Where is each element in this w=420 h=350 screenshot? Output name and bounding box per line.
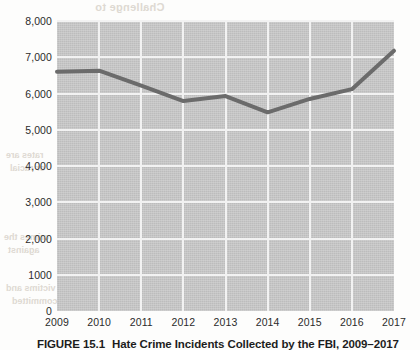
- y-axis-tick-label: 6,000: [2, 88, 52, 100]
- line-chart-figure: 010002,0003,0004,0005,0006,0007,0008,000…: [0, 0, 420, 350]
- x-axis-tick-label: 2016: [340, 316, 364, 328]
- x-axis-tick-label: 2017: [382, 316, 406, 328]
- x-axis-tick-label: 2012: [171, 316, 195, 328]
- hate-crime-incidents-line: [57, 51, 394, 113]
- y-axis-tick-label: 1000: [2, 269, 52, 281]
- y-axis-tick-label: 4,000: [2, 160, 52, 172]
- x-axis-tick-label: 2010: [87, 316, 111, 328]
- x-axis-tick-label: 2011: [130, 316, 153, 328]
- figure-caption: FIGURE 15.1Hate Crime Incidents Collecte…: [37, 338, 399, 350]
- x-axis-tick-label: 2009: [45, 316, 69, 328]
- y-axis-tick-label: 5,000: [2, 124, 52, 136]
- y-axis-tick-label: 7,000: [2, 51, 52, 63]
- y-axis-tick-label: 8,000: [2, 15, 52, 27]
- y-axis-tick-label: 2,000: [2, 233, 52, 245]
- chart-series-layer: [57, 21, 394, 311]
- y-axis-tick-label: 3,000: [2, 196, 52, 208]
- x-axis-tick-label: 2015: [298, 316, 322, 328]
- figure-number: FIGURE 15.1: [37, 338, 105, 350]
- figure-caption-text: Hate Crime Incidents Collected by the FB…: [112, 338, 399, 350]
- x-axis-tick-label: 2014: [256, 316, 280, 328]
- x-axis-tick-label: 2013: [214, 316, 238, 328]
